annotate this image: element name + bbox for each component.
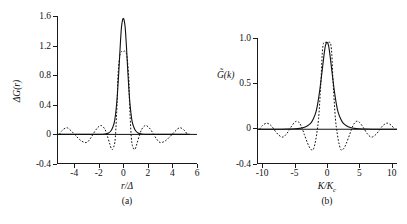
panel-a-y-axis-label: ΔG(r)	[12, 80, 22, 102]
panel-b-sinc-curve	[260, 42, 395, 150]
panel-b-xtick-label-3: 0	[325, 168, 330, 178]
panel-b-xlabel-subscript: c	[333, 186, 336, 194]
panel-b-ytick-label-4: -0.4	[236, 159, 251, 169]
panel-a: ΔG(r) 1.6 1.2 0.8 0.4 0 -0.4 -4 -2 0	[0, 0, 203, 224]
panel-b-plot-area: 1.0 0.5 0 -0.4 -10 -5 0 5 10	[257, 38, 397, 164]
panel-a-ytick-label-4: 0.4	[39, 100, 51, 110]
panel-b: G̃(k) 1.0 0.5 0 -0.4 -10 -5 0 5 10	[203, 0, 406, 224]
panel-a-xtick-label-2: -2	[95, 168, 103, 178]
panel-b-gaussian-curve	[257, 42, 397, 129]
panel-a-xtick-label-1: -4	[70, 168, 78, 178]
panel-a-ytick-label-2: 1.2	[39, 41, 51, 51]
figure-container: ΔG(r) 1.6 1.2 0.8 0.4 0 -0.4 -4 -2 0	[0, 0, 407, 224]
panel-b-ytick-label-3: 0	[246, 123, 251, 133]
panel-a-xtick-label-5: 4	[170, 168, 175, 178]
panel-a-ytick-label-1: 1.6	[39, 11, 51, 21]
panel-a-ytick-label-3: 0.8	[39, 70, 51, 80]
panel-b-ytick-4	[253, 164, 257, 165]
panel-b-ytick-label-2: 0.5	[239, 78, 251, 88]
panel-b-xtick-label-2: -5	[291, 168, 299, 178]
panel-a-ytick-label-6: -0.4	[36, 159, 51, 169]
panel-a-xtick-label-6: 6	[195, 168, 200, 178]
panel-b-x-axis-label: K/Kc	[318, 181, 336, 194]
panel-a-xtick-label-4: 2	[145, 168, 150, 178]
panel-a-curves	[57, 16, 197, 164]
panel-a-plot-area: 1.6 1.2 0.8 0.4 0 -0.4 -4 -2 0 2 4 6	[57, 16, 197, 164]
panel-b-curves	[257, 38, 397, 164]
panel-b-caption: (b)	[321, 196, 332, 206]
panel-b-y-axis-label: G̃(k)	[217, 70, 234, 80]
panel-b-xtick-label-5: 10	[387, 168, 397, 178]
panel-b-xtick-label-4: 5	[357, 168, 362, 178]
panel-a-x-axis-label: r/Δ	[121, 181, 133, 191]
panel-a-xtick-label-3: 0	[121, 168, 126, 178]
panel-b-xtick-label-1: -10	[256, 168, 269, 178]
panel-a-gaussian-curve	[57, 19, 190, 135]
panel-b-ytick-label-1: 1.0	[239, 33, 251, 43]
panel-a-ytick-6	[53, 164, 57, 165]
panel-a-caption: (a)	[122, 196, 133, 206]
panel-a-ytick-label-5: 0	[46, 129, 51, 139]
